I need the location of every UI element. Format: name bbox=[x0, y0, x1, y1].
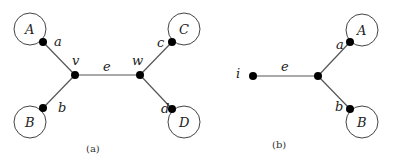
port-b-label-b: b bbox=[335, 99, 343, 114]
port-c-node bbox=[168, 38, 176, 46]
port-a-node bbox=[39, 38, 47, 46]
caption-a: (a) bbox=[86, 143, 100, 154]
vertex-v-node bbox=[71, 71, 79, 79]
edge-junction-a bbox=[318, 42, 350, 76]
port-d-label: d bbox=[161, 101, 169, 116]
subtree-a-label-b: A bbox=[356, 23, 366, 38]
subtree-a-label: A bbox=[24, 22, 34, 37]
port-b-node bbox=[39, 104, 47, 112]
port-a-node-b bbox=[346, 38, 354, 46]
figure-a: A B C D a b c d v w e (a) bbox=[14, 13, 200, 154]
edge-e-label-b: e bbox=[281, 59, 289, 74]
port-a-label: a bbox=[54, 34, 62, 49]
port-a-label-b: a bbox=[336, 37, 344, 52]
edge-w-c bbox=[140, 42, 172, 75]
caption-b: (b) bbox=[272, 139, 286, 150]
leaf-i-node bbox=[249, 72, 257, 80]
leaf-i-label: i bbox=[236, 66, 240, 81]
port-c-label: c bbox=[157, 35, 165, 50]
vertex-v-label: v bbox=[72, 53, 80, 68]
junction-node bbox=[314, 72, 322, 80]
edge-junction-b bbox=[318, 76, 350, 109]
figure-b: A B a b i e (b) bbox=[236, 14, 378, 150]
edge-e-label: e bbox=[103, 59, 111, 74]
subtree-b-label: B bbox=[24, 115, 35, 130]
vertex-w-node bbox=[136, 71, 144, 79]
subtree-d-label: D bbox=[178, 115, 190, 130]
port-b-label: b bbox=[58, 100, 66, 115]
subtree-b-label-b: B bbox=[356, 115, 367, 130]
subtree-c-label: C bbox=[179, 22, 189, 37]
port-b-node-b bbox=[346, 105, 354, 113]
tree-diagram: A B C D a b c d v w e (a) A B a b i e (b… bbox=[0, 0, 393, 164]
vertex-w-label: w bbox=[132, 53, 143, 68]
